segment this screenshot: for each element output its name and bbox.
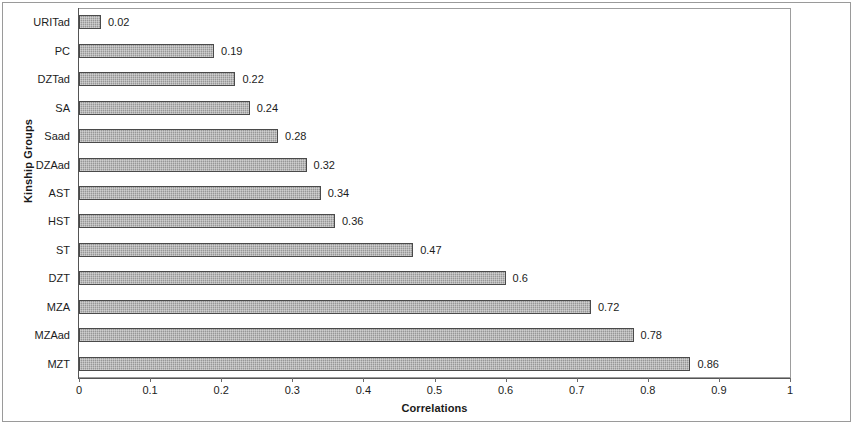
bar[interactable] bbox=[79, 158, 307, 172]
bar-value-label: 0.6 bbox=[513, 272, 528, 284]
bar-value-label: 0.22 bbox=[242, 73, 263, 85]
bar[interactable] bbox=[79, 328, 634, 342]
x-axis-title: Correlations bbox=[78, 402, 791, 414]
bar-value-label: 0.72 bbox=[598, 301, 619, 313]
x-axis-tick-label: 0.9 bbox=[711, 384, 726, 396]
bar-row: Saad0.28 bbox=[0, 122, 854, 150]
x-axis-tick-label: 0.8 bbox=[640, 384, 655, 396]
x-axis-tick-label: 0.5 bbox=[427, 384, 442, 396]
chart-figure: Kinship Groups URITad0.02PC0.19DZTad0.22… bbox=[0, 0, 854, 425]
bar[interactable] bbox=[79, 300, 591, 314]
category-label: ST bbox=[56, 244, 70, 256]
bar-row: MZT0.86 bbox=[0, 350, 854, 378]
x-axis-tick-mark bbox=[648, 378, 649, 382]
bar-value-label: 0.02 bbox=[108, 16, 129, 28]
bar[interactable] bbox=[79, 243, 413, 257]
bar-value-label: 0.24 bbox=[257, 102, 278, 114]
x-axis-tick-label: 0.6 bbox=[498, 384, 513, 396]
category-label: DZTad bbox=[38, 73, 70, 85]
category-label: MZAad bbox=[35, 329, 70, 341]
x-axis-tick-mark bbox=[363, 378, 364, 382]
x-axis-tick-mark bbox=[790, 378, 791, 382]
category-label: Saad bbox=[44, 130, 70, 142]
x-axis-tick-label: 0.1 bbox=[142, 384, 157, 396]
bar-row: SA0.24 bbox=[0, 93, 854, 121]
category-label: MZA bbox=[47, 301, 70, 313]
category-label: HST bbox=[48, 215, 70, 227]
bar-row: DZTad0.22 bbox=[0, 65, 854, 93]
category-label: PC bbox=[55, 45, 70, 57]
x-axis-tick-mark bbox=[435, 378, 436, 382]
bar[interactable] bbox=[79, 101, 250, 115]
bar[interactable] bbox=[79, 357, 690, 371]
x-axis-tick-label: 0.3 bbox=[285, 384, 300, 396]
bar-row: HST0.36 bbox=[0, 207, 854, 235]
x-axis-tick-mark bbox=[719, 378, 720, 382]
x-axis-tick-mark bbox=[150, 378, 151, 382]
bar[interactable] bbox=[79, 129, 278, 143]
x-axis-tick-mark bbox=[79, 378, 80, 382]
bar-value-label: 0.19 bbox=[221, 45, 242, 57]
category-label: URITad bbox=[33, 16, 70, 28]
category-label: SA bbox=[55, 102, 70, 114]
category-label: MZT bbox=[47, 358, 70, 370]
bar-rows-container: URITad0.02PC0.19DZTad0.22SA0.24Saad0.28D… bbox=[0, 8, 854, 378]
x-axis-tick-mark bbox=[221, 378, 222, 382]
x-axis-tick-label: 1 bbox=[787, 384, 793, 396]
x-axis-tick-mark bbox=[292, 378, 293, 382]
x-axis-tick-label: 0.4 bbox=[356, 384, 371, 396]
bar-value-label: 0.28 bbox=[285, 130, 306, 142]
x-axis-tick-label: 0.2 bbox=[214, 384, 229, 396]
bar[interactable] bbox=[79, 44, 214, 58]
x-axis-tick-label: 0 bbox=[76, 384, 82, 396]
bar-value-label: 0.86 bbox=[697, 358, 718, 370]
x-axis-tick-label: 0.7 bbox=[569, 384, 584, 396]
bar-value-label: 0.34 bbox=[328, 187, 349, 199]
bar-row: MZAad0.78 bbox=[0, 321, 854, 349]
bar-row: AST0.34 bbox=[0, 179, 854, 207]
bar[interactable] bbox=[79, 271, 506, 285]
bar[interactable] bbox=[79, 72, 235, 86]
category-label: AST bbox=[49, 187, 70, 199]
x-axis-tick-mark bbox=[577, 378, 578, 382]
bar-value-label: 0.78 bbox=[641, 329, 662, 341]
bar[interactable] bbox=[79, 186, 321, 200]
bar-row: URITad0.02 bbox=[0, 8, 854, 36]
bar-row: PC0.19 bbox=[0, 36, 854, 64]
category-label: DZT bbox=[49, 272, 70, 284]
bar[interactable] bbox=[79, 15, 101, 29]
bar[interactable] bbox=[79, 214, 335, 228]
bar-row: DZT0.6 bbox=[0, 264, 854, 292]
x-axis-tick-mark bbox=[506, 378, 507, 382]
bar-row: ST0.47 bbox=[0, 236, 854, 264]
bar-value-label: 0.47 bbox=[420, 244, 441, 256]
bar-row: DZAad0.32 bbox=[0, 150, 854, 178]
category-label: DZAad bbox=[36, 159, 70, 171]
bar-row: MZA0.72 bbox=[0, 293, 854, 321]
bar-value-label: 0.36 bbox=[342, 215, 363, 227]
bar-value-label: 0.32 bbox=[314, 159, 335, 171]
